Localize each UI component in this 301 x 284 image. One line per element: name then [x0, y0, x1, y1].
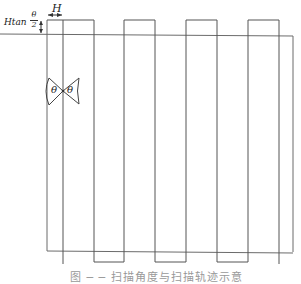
arrowhead-up-icon [39, 21, 43, 25]
fraction-denominator: 2 [30, 20, 38, 29]
square-wave-path [47, 20, 279, 264]
angle-theta-right: θ [67, 84, 73, 95]
offset-label-fraction: θ 2 [30, 11, 38, 29]
fraction-numerator: θ [30, 11, 38, 19]
angle-theta-left: θ [51, 84, 57, 95]
bowtie-center-dot [62, 90, 65, 93]
arrowhead-down-icon [39, 29, 43, 33]
figure-caption: 图 ─ ─ 扫描角度与扫描轨迹示意 [70, 268, 243, 284]
width-label: H [52, 2, 62, 15]
frame-outline [0, 34, 293, 252]
offset-label-prefix: Htan [4, 17, 27, 27]
frame-bottom-edge [47, 251, 293, 253]
